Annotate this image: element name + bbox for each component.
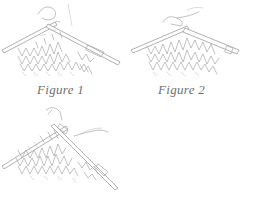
figure-3 xyxy=(0,100,127,204)
figure-1-caption: Figure 1 xyxy=(37,82,84,98)
knitting-illustration-3 xyxy=(0,100,127,185)
figure-1: Figure 1 xyxy=(0,0,127,100)
knitting-illustration-2 xyxy=(127,0,254,80)
figure-2-caption: Figure 2 xyxy=(158,82,205,98)
knitting-illustration-1 xyxy=(0,0,127,80)
figure-2: Figure 2 xyxy=(127,0,254,100)
